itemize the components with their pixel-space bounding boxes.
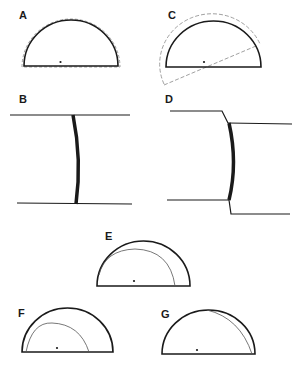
panel-g-label: G: [161, 308, 170, 320]
panel-a-label: A: [19, 9, 27, 21]
panel-c-label: C: [168, 9, 176, 21]
semicircle: [24, 20, 118, 66]
panel-d: D: [165, 93, 292, 214]
center-dot: [56, 347, 58, 349]
center-dot: [203, 61, 205, 63]
curved-bar: [229, 123, 234, 200]
dashed-diameter: [164, 46, 256, 85]
panel-f-label: F: [18, 307, 25, 319]
inner-arc: [207, 310, 252, 354]
bottom-right-line: [229, 200, 290, 214]
top-right-line: [228, 123, 292, 124]
panel-c: C: [160, 9, 261, 85]
diagram-canvas: A C B D E F: [0, 0, 299, 368]
curved-bar: [73, 115, 78, 204]
top-left-line: [170, 111, 228, 123]
center-dot: [59, 61, 61, 63]
panel-e-label: E: [105, 230, 112, 242]
dashed-outline: [22, 19, 120, 67]
semicircle: [97, 241, 190, 286]
panel-b-label: B: [19, 93, 27, 105]
panel-d-label: D: [165, 93, 173, 105]
panel-g: G: [161, 308, 255, 354]
center-dot: [196, 349, 198, 351]
panel-a: A: [19, 9, 120, 67]
panel-f: F: [18, 307, 113, 352]
semicircle: [166, 21, 261, 67]
panel-e: E: [97, 230, 190, 286]
dashed-rotated-arc: [160, 14, 260, 84]
panel-b: B: [10, 93, 132, 204]
center-dot: [133, 280, 135, 282]
